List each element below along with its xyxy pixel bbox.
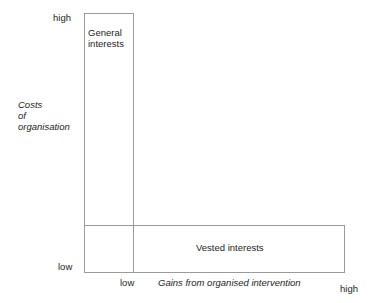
x-axis-low-tick-label: low [120,277,134,288]
band-right-edge [344,225,345,273]
band-top-edge [84,225,345,226]
x-axis-high-tick-label: high [340,283,358,294]
y-axis-low-tick-label: low [58,261,72,272]
y-axis-title: Costs of organisation [18,99,70,132]
region-label-general-interests: General interests [88,27,124,49]
column-right-edge [133,13,134,273]
diagram-canvas: high low low high Costs of organisation … [0,0,373,303]
band-bottom-edge [84,272,345,273]
column-top-edge [84,13,134,14]
region-label-vested-interests: Vested interests [196,242,264,253]
y-axis-high-tick-label: high [53,12,71,23]
x-axis-title: Gains from organised intervention [158,277,301,288]
column-left-edge [84,13,85,273]
